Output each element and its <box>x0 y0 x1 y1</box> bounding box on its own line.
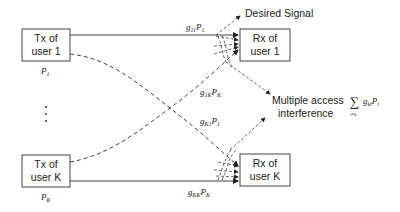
rx-user-1-fan-arrows <box>214 36 238 68</box>
mai-arrow-from-rx1 <box>226 62 270 94</box>
mai-sum-subscript: i≠k <box>350 112 357 117</box>
tx-user-1-power: P1 <box>40 66 50 77</box>
rx-user-k-box: Rx of user K <box>240 154 290 186</box>
tx-user-1-line2: user 1 <box>31 45 60 57</box>
diagram-canvas: Tx of user 1 P1 Tx of user K PK Rx of us… <box>0 0 400 212</box>
rx-user-k-line2: user K <box>250 170 280 182</box>
interference-link-tx1-to-rxk <box>70 54 238 166</box>
interference-link-txk-to-rx1 <box>70 50 238 162</box>
tx-user-k-line2: user K <box>31 171 61 183</box>
mai-sum-symbol: ∑ <box>350 94 359 109</box>
mai-label-line1: Multiple access <box>272 94 344 106</box>
label-g1k-pk: g1KPK <box>200 87 222 98</box>
label-gkk-pk: gKKPK <box>188 187 211 198</box>
rx-user-k-fan-arrows <box>214 148 238 180</box>
rx-user-1-line1: Rx of <box>253 32 278 44</box>
tx-user-1-box: Tx of user 1 <box>22 29 70 61</box>
rx-user-1-line2: user 1 <box>250 45 279 57</box>
rx-user-k-line1: Rx of <box>253 157 278 169</box>
tx-user-k-box: Tx of user K <box>22 155 70 187</box>
mai-formula-term: gkiPi <box>363 96 379 107</box>
tx-user-k-line1: Tx of <box>34 158 57 170</box>
mai-arrow-from-rxk <box>230 118 265 150</box>
desired-signal-label: Desired Signal <box>245 7 313 19</box>
ellipsis-dots <box>45 106 47 122</box>
desired-signal-arrow <box>216 16 240 35</box>
label-g11-p1: g11P1 <box>186 22 205 33</box>
rx-user-1-box: Rx of user 1 <box>240 29 290 61</box>
mai-label-line2: interference <box>278 107 334 119</box>
label-gk1-p1: gK1P1 <box>200 116 220 127</box>
tx-user-1-line1: Tx of <box>34 32 57 44</box>
tx-user-k-power: PK <box>40 192 52 203</box>
